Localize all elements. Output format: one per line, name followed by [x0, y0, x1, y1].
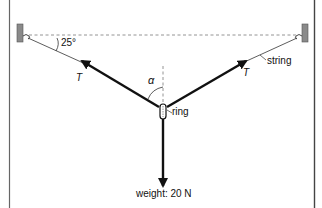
string-label-leader: [260, 55, 266, 60]
string-label: string: [267, 56, 291, 66]
left-string: [28, 38, 90, 66]
force-diagram: 25° T T string α ring weight: 20 N: [0, 0, 322, 208]
ring-label: ring: [172, 107, 189, 117]
alpha-label: α: [148, 75, 154, 86]
tension-arrow-right: [167, 61, 246, 107]
angle-label-25: 25°: [61, 38, 76, 48]
weight-label: weight: 20 N: [136, 189, 192, 199]
left-wall-block: [17, 24, 23, 42]
diagram-canvas: [0, 0, 322, 208]
alpha-arc: [148, 87, 163, 99]
tension-label-right: T: [243, 68, 249, 78]
right-wall-block: [302, 24, 308, 42]
tension-label-left: T: [76, 73, 82, 83]
angle-arc-25: [56, 38, 58, 51]
